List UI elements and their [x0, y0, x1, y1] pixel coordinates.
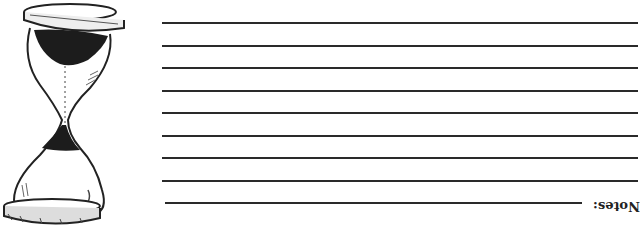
ruled-line [162, 45, 638, 47]
ruled-line [162, 22, 638, 24]
ruled-line [162, 180, 638, 182]
hourglass-bottom-cap [4, 199, 100, 224]
hourglass-top-cap [24, 4, 124, 31]
bottom-sand [42, 125, 80, 151]
ruled-line [162, 112, 638, 114]
ruled-line [162, 157, 638, 159]
notes-label: Notes: [584, 198, 640, 214]
ruled-line [165, 202, 582, 204]
hourglass-icon [0, 0, 130, 227]
ruled-line [162, 135, 638, 137]
ruled-line [162, 90, 638, 92]
ruled-line [162, 67, 638, 69]
